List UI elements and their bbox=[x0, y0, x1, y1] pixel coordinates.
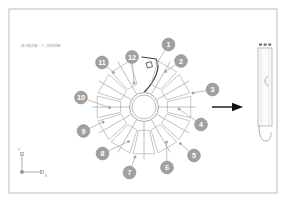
petal-6 bbox=[151, 125, 177, 153]
balloon-circle-4[interactable] bbox=[195, 118, 208, 131]
leader-line-8 bbox=[108, 142, 128, 151]
balloon-circle-8[interactable] bbox=[96, 147, 109, 160]
balloon-callout-9[interactable]: 9 bbox=[77, 121, 104, 138]
balloon-callout-4[interactable]: 4 bbox=[178, 108, 208, 131]
balloon-callout-2[interactable]: 2 bbox=[164, 55, 187, 73]
detail-tail-hook bbox=[259, 126, 271, 141]
petal-9 bbox=[98, 114, 126, 140]
leader-anchor-dot-5 bbox=[179, 142, 182, 145]
leader-anchor-dot-4 bbox=[178, 108, 181, 111]
balloon-callout-3[interactable]: 3 bbox=[192, 83, 219, 96]
balloon-circle-7[interactable] bbox=[123, 166, 136, 179]
leader-anchor-dot-3 bbox=[192, 92, 195, 95]
balloon-callout-7[interactable]: 7 bbox=[123, 156, 136, 179]
leader-anchor-dot-1 bbox=[156, 62, 159, 65]
leader-anchor-dot-9 bbox=[102, 121, 105, 124]
petal-11 bbox=[98, 74, 126, 100]
balloon-circle-9[interactable] bbox=[77, 125, 90, 138]
rib-section-detail bbox=[258, 44, 272, 142]
leader-anchor-dot-11 bbox=[112, 71, 115, 74]
balloon-callout-11[interactable]: 11 bbox=[96, 56, 115, 74]
detail-tick-2 bbox=[264, 44, 267, 46]
balloon-circle-12[interactable] bbox=[126, 51, 139, 64]
detail-tick-3 bbox=[268, 44, 271, 46]
hub-outer-ring bbox=[130, 93, 159, 122]
leader-line-1 bbox=[157, 50, 165, 63]
drawing-sheet: - 部分拡大図 ・リブ形状詳細 123456789101112 Y X bbox=[0, 0, 288, 212]
arrow-head bbox=[232, 103, 243, 111]
technical-drawing-canvas: 123456789101112 Y X bbox=[0, 0, 288, 212]
leader-anchor-dot-8 bbox=[127, 140, 130, 143]
balloon-callout-5[interactable]: 5 bbox=[179, 142, 200, 162]
leader-anchor-dot-12 bbox=[133, 82, 136, 85]
leader-line-5 bbox=[181, 144, 190, 152]
balloon-circle-11[interactable] bbox=[96, 56, 109, 69]
axis-x-label: X bbox=[45, 173, 48, 178]
section-direction-arrow bbox=[212, 103, 243, 111]
detail-tick-1 bbox=[259, 44, 262, 46]
petal-3 bbox=[162, 74, 190, 100]
axis-y-label: Y bbox=[18, 147, 21, 152]
leader-anchor-dot-6 bbox=[165, 141, 168, 144]
leader-line-4 bbox=[179, 109, 196, 121]
leader-line-10 bbox=[87, 100, 109, 108]
balloon-circle-2[interactable] bbox=[175, 55, 188, 68]
leader-line-9 bbox=[89, 122, 103, 128]
balloon-circle-6[interactable] bbox=[161, 161, 174, 174]
balloon-circle-5[interactable] bbox=[188, 149, 201, 162]
balloon-circle-10[interactable] bbox=[75, 91, 88, 104]
balloon-circle-3[interactable] bbox=[206, 83, 219, 96]
leader-anchor-dot-7 bbox=[134, 156, 137, 159]
detail-body-outline bbox=[258, 48, 272, 126]
balloon-callout-1[interactable]: 1 bbox=[156, 38, 175, 64]
petal-2 bbox=[151, 61, 177, 89]
petal-tip-marker-1 bbox=[146, 62, 153, 69]
coordinate-axis-triad: Y X bbox=[18, 147, 48, 178]
leader-line-3 bbox=[193, 91, 206, 93]
petal-5 bbox=[162, 114, 190, 140]
leader-anchor-dot-2 bbox=[164, 70, 167, 73]
petal-8 bbox=[111, 125, 137, 153]
balloon-circle-1[interactable] bbox=[162, 38, 175, 51]
balloon-callout-10[interactable]: 10 bbox=[75, 91, 111, 109]
leader-line-7 bbox=[132, 157, 135, 166]
leader-anchor-dot-10 bbox=[108, 106, 111, 109]
